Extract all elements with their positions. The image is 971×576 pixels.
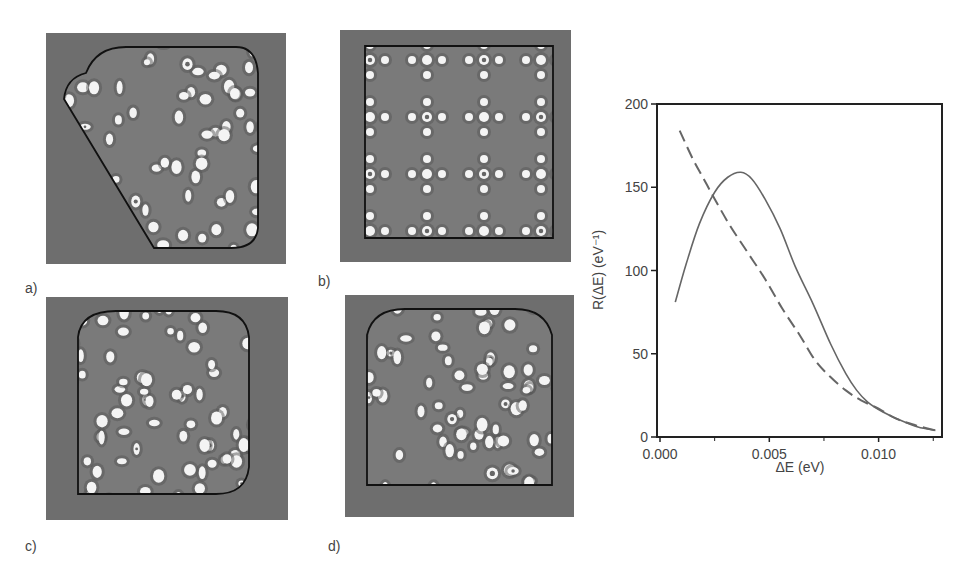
y-tick-label: 0 <box>640 429 648 445</box>
y-tick-label: 50 <box>632 346 648 362</box>
y-tick-label: 150 <box>625 179 649 195</box>
x-axis-label: ΔE (eV) <box>775 459 824 475</box>
chart-axes: 0501001502000.0000.0050.010 <box>625 96 942 462</box>
series-line-solid <box>675 172 935 430</box>
series-line-dashed <box>680 131 936 431</box>
chart-series <box>675 131 935 431</box>
y-axis-label: R(ΔE) (eV⁻¹) <box>590 230 606 310</box>
y-tick-label: 200 <box>625 96 649 112</box>
x-tick-label: 0.000 <box>642 446 677 462</box>
plot-frame <box>657 104 942 437</box>
x-tick-label: 0.010 <box>861 446 896 462</box>
line-chart: 0501001502000.0000.0050.010 ΔE (eV) R(ΔE… <box>0 0 971 576</box>
y-tick-label: 100 <box>625 263 649 279</box>
